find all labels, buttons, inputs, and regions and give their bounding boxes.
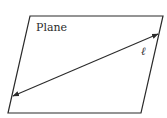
plane-line-diagram: Plane ℓ	[0, 0, 167, 118]
line-l-arrow	[13, 34, 158, 96]
line-label: ℓ	[141, 45, 146, 58]
plane-label: Plane	[36, 21, 67, 34]
